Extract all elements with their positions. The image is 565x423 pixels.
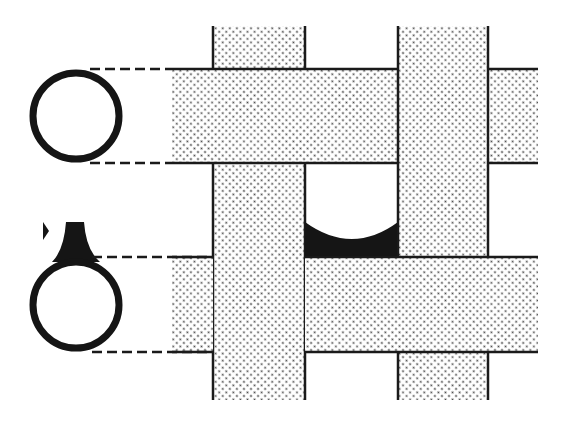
fillet-tip-mark <box>43 222 49 240</box>
diagram-canvas <box>0 0 565 423</box>
cross-section-top <box>33 69 172 163</box>
woven-strand-diagram <box>0 0 565 423</box>
fillet-meniscus <box>305 222 398 257</box>
